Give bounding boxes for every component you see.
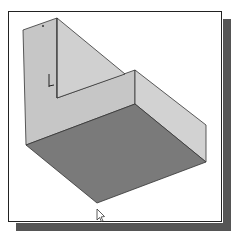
origin-dot-icon bbox=[42, 25, 44, 27]
mouse-cursor-icon bbox=[97, 209, 105, 222]
model-viewport[interactable] bbox=[0, 0, 240, 239]
